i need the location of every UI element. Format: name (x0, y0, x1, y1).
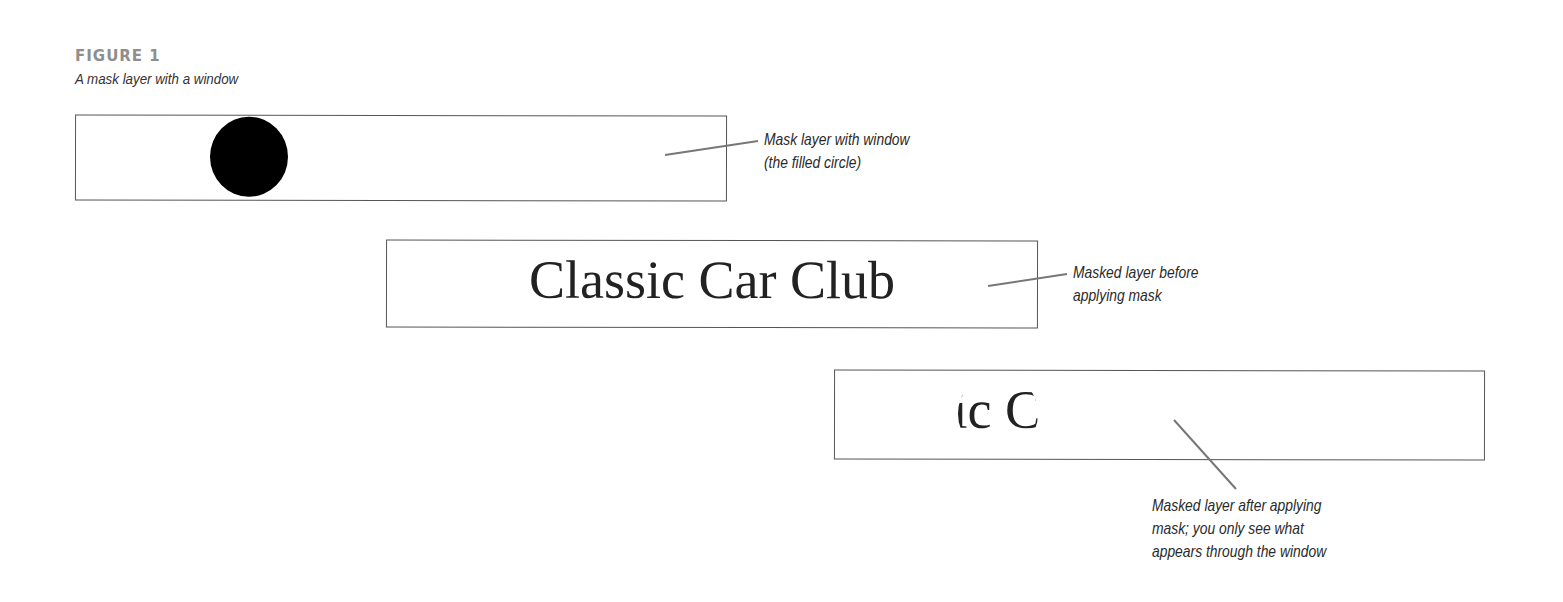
callout-mask-layer: Mask layer with window (the filled circl… (764, 128, 910, 174)
figure-caption: A mask layer with a window (75, 70, 238, 88)
callout-masked-before: Masked layer before applying mask (1073, 261, 1199, 307)
masked-layer-after-panel: Classic Car Club (834, 369, 1485, 460)
mask-window-clip: Classic Car Club (958, 373, 1038, 455)
classic-car-club-text: Classic Car Club (387, 248, 1037, 311)
mask-layer-panel (75, 114, 727, 201)
callout-line: applying mask (1073, 284, 1199, 307)
clipped-text: Classic Car Club (958, 378, 1038, 441)
callout-line: mask; you only see what (1152, 517, 1326, 540)
callout-line: (the filled circle) (764, 151, 910, 174)
callout-line: appears through the window (1152, 540, 1326, 563)
callout-line: Masked layer after applying (1152, 494, 1326, 517)
mask-window-circle (210, 117, 288, 197)
callout-masked-after: Masked layer after applying mask; you on… (1152, 494, 1326, 563)
masked-layer-before-panel: Classic Car Club (386, 239, 1038, 328)
figure-number: FIGURE 1 (75, 47, 161, 65)
callout-line: Masked layer before (1073, 261, 1199, 284)
callout-line: Mask layer with window (764, 128, 910, 151)
